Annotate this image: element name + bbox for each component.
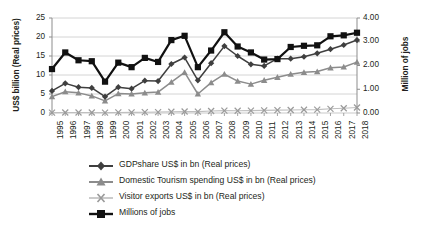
x-axis-tick: 2000 [122, 121, 131, 139]
y-axis-left-tick: 0 [23, 108, 45, 117]
y-axis-right-tick: 4.00 [363, 13, 389, 22]
triangle-marker [88, 174, 114, 186]
y-axis-right-tick: 0.00 [363, 108, 389, 117]
diamond-marker [88, 158, 114, 170]
x-axis-tick: 2009 [242, 121, 251, 139]
x-axis-tick: 2001 [136, 121, 145, 139]
y-axis-left-tick: 25 [23, 13, 45, 22]
x-axis-tick: 2004 [175, 121, 184, 139]
x-marker [88, 190, 114, 202]
series-x [49, 104, 360, 115]
x-axis-tick: 2017 [348, 121, 357, 139]
x-axis-tick: 1999 [109, 121, 118, 139]
y-axis-right-tick: 2.00 [363, 60, 389, 69]
x-axis-tick: 2008 [228, 121, 237, 139]
legend-item-gdpshare: GDPshare US$ in bn (Real prices) [88, 156, 418, 172]
square-marker [88, 206, 114, 218]
x-axis-tick: 2005 [189, 121, 198, 139]
x-axis-tick: 2018 [361, 121, 370, 139]
chart-figure: US$ billion (Real prices) Million of job… [0, 0, 423, 231]
x-axis-tick: 2011 [268, 121, 277, 139]
x-axis-tick: 1996 [69, 121, 78, 139]
y-axis-left-tick: 15 [23, 51, 45, 60]
x-axis-tick: 1997 [83, 121, 92, 139]
x-axis-tick: 2010 [255, 121, 264, 139]
chart-plot-region: US$ billion (Real prices) Million of job… [0, 0, 423, 150]
x-axis-tick: 2015 [321, 121, 330, 139]
y-axis-left-tick: 5 [23, 89, 45, 98]
legend-label-domestic-tourism: Domestic Tourism spending US$ in bn (Rea… [119, 175, 316, 185]
legend-item-millions-of-jobs: Millions of jobs [88, 204, 418, 220]
x-axis-tick: 2002 [149, 121, 158, 139]
x-axis-tick: 2014 [308, 121, 317, 139]
y-axis-right-tick: 1.00 [363, 84, 389, 93]
legend-label-millions-of-jobs: Millions of jobs [119, 207, 175, 217]
x-axis-tick: 2003 [162, 121, 171, 139]
legend-label-gdpshare: GDPshare US$ in bn (Real prices) [119, 159, 250, 169]
x-axis-tick: 2016 [334, 121, 343, 139]
legend-label-visitor-exports: Visitor exports US$ in bn (Real prices) [119, 191, 265, 201]
y-axis-right-tick: 3.00 [363, 36, 389, 45]
series-square [49, 29, 360, 85]
legend-item-visitor-exports: Visitor exports US$ in bn (Real prices) [88, 188, 418, 204]
chart-legend: GDPshare US$ in bn (Real prices) Domesti… [88, 156, 418, 220]
x-axis-tick: 2007 [215, 121, 224, 139]
legend-item-domestic-tourism: Domestic Tourism spending US$ in bn (Rea… [88, 172, 418, 188]
y-axis-left-tick: 20 [23, 32, 45, 41]
x-axis-tick: 2006 [202, 121, 211, 139]
y-axis-left-tick: 10 [23, 70, 45, 79]
x-axis-tick: 2012 [281, 121, 290, 139]
x-axis-tick: 1995 [56, 121, 65, 139]
x-axis-tick: 2013 [295, 121, 304, 139]
x-axis-tick: 1998 [96, 121, 105, 139]
